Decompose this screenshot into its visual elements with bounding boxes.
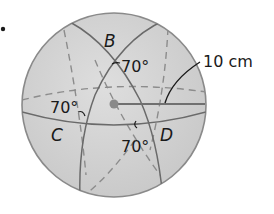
radius-measure-label: 10 cm	[203, 52, 253, 71]
point-label-b: B	[104, 31, 116, 51]
point-label-d: D	[160, 125, 173, 145]
center-point	[110, 100, 119, 109]
point-label-c: C	[51, 125, 63, 145]
angle-label-b: 70°	[121, 57, 149, 76]
spherical-triangle-diagram: B 70° 70° C 70° D 10 cm	[0, 0, 274, 214]
angle-label-d: 70°	[121, 137, 149, 156]
bullet-marker	[1, 27, 5, 31]
angle-label-c: 70°	[50, 98, 78, 117]
